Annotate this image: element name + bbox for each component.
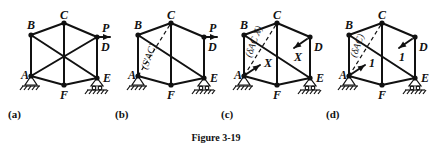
joint-D bbox=[412, 34, 417, 39]
joint-label-F: F bbox=[166, 88, 175, 102]
roller-wheel bbox=[205, 86, 209, 90]
joint-E bbox=[201, 75, 206, 80]
figure-3-19: ABCDEFP(a)ABCDEFP(S'AC)(b)ABCDEFXX(δAC X… bbox=[0, 0, 432, 145]
joint-label-A: A bbox=[338, 68, 347, 82]
ground-hatch bbox=[192, 90, 195, 94]
ground-hatch bbox=[338, 86, 341, 90]
ground-hatch bbox=[85, 90, 88, 94]
panel-a: ABCDEFP(a) bbox=[8, 8, 111, 121]
force-label-D: 1 bbox=[399, 50, 405, 64]
joint-label-D: D bbox=[313, 40, 323, 54]
load-label: P bbox=[102, 21, 110, 35]
joint-A bbox=[28, 73, 33, 78]
roller-wheel bbox=[311, 86, 315, 90]
panel-caption: (a) bbox=[8, 108, 21, 121]
joint-F bbox=[379, 82, 384, 87]
joint-E bbox=[94, 75, 99, 80]
joint-label-C: C bbox=[378, 8, 387, 22]
member-CD bbox=[277, 23, 310, 37]
ground-hatch bbox=[233, 86, 236, 90]
joint-B bbox=[346, 32, 351, 37]
member-BC bbox=[31, 23, 64, 35]
member-CD bbox=[64, 23, 97, 37]
joint-label-F: F bbox=[59, 88, 68, 102]
force-label-A: 1 bbox=[369, 56, 375, 70]
member-BC bbox=[349, 23, 382, 35]
joint-F bbox=[61, 82, 66, 87]
load-label: P bbox=[209, 21, 217, 35]
roller-wheel bbox=[416, 86, 420, 90]
panel-c: ABCDEFXX(δAC X)(c) bbox=[221, 8, 324, 121]
panel-caption: (c) bbox=[221, 108, 234, 121]
joint-label-E: E bbox=[102, 71, 111, 85]
joint-label-D: D bbox=[207, 40, 217, 54]
joint-label-F: F bbox=[272, 88, 281, 102]
joint-label-D: D bbox=[418, 40, 428, 54]
ground-hatch bbox=[298, 90, 301, 94]
panel-d: ABCDEF11(δAC)(d) bbox=[326, 8, 429, 121]
joint-label-A: A bbox=[127, 68, 136, 82]
roller-wheel bbox=[98, 86, 102, 90]
joint-E bbox=[412, 75, 417, 80]
member-AC-annotation: (S'AC) bbox=[139, 41, 160, 71]
panel-caption: (b) bbox=[115, 108, 129, 121]
joint-F bbox=[274, 82, 279, 87]
ground-hatch bbox=[403, 90, 406, 94]
joint-label-C: C bbox=[167, 8, 176, 22]
joint-D bbox=[307, 34, 312, 39]
joint-label-E: E bbox=[209, 71, 218, 85]
joint-label-D: D bbox=[100, 40, 110, 54]
force-label-A: X bbox=[263, 56, 273, 70]
joint-label-C: C bbox=[273, 8, 282, 22]
joint-B bbox=[241, 32, 246, 37]
joint-label-F: F bbox=[377, 88, 386, 102]
joint-F bbox=[168, 82, 173, 87]
joint-label-E: E bbox=[420, 71, 429, 85]
ground-hatch bbox=[20, 86, 23, 90]
joint-label-B: B bbox=[26, 18, 35, 32]
member-CD bbox=[382, 23, 415, 37]
joint-label-B: B bbox=[239, 18, 248, 32]
roller-wheel bbox=[305, 86, 309, 90]
panel-b: ABCDEFP(S'AC)(b) bbox=[115, 8, 218, 121]
joint-B bbox=[28, 32, 33, 37]
joint-label-E: E bbox=[315, 71, 324, 85]
crossing-point bbox=[62, 55, 65, 58]
joint-label-A: A bbox=[20, 68, 29, 82]
joint-B bbox=[135, 32, 140, 37]
roller-wheel bbox=[199, 86, 203, 90]
joint-label-A: A bbox=[233, 68, 242, 82]
member-CD bbox=[171, 23, 204, 37]
ground-hatch bbox=[127, 86, 130, 90]
roller-wheel bbox=[410, 86, 414, 90]
roller-wheel bbox=[92, 86, 96, 90]
figure-title: Figure 3-19 bbox=[192, 132, 241, 143]
joint-E bbox=[307, 75, 312, 80]
joint-label-B: B bbox=[344, 18, 353, 32]
panel-caption: (d) bbox=[326, 108, 340, 121]
joint-label-B: B bbox=[133, 18, 142, 32]
force-label-D: X bbox=[293, 50, 303, 64]
joint-A bbox=[135, 73, 140, 78]
joint-label-C: C bbox=[60, 8, 69, 22]
member-BC bbox=[138, 23, 171, 35]
